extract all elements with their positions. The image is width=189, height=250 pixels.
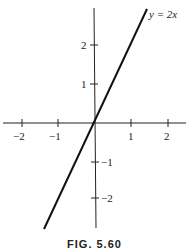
y-tick-label: −2 [101,192,113,204]
x-tick-label: 2 [164,130,170,142]
x-tick-label: −1 [49,130,61,142]
equation-label: y = 2x [148,8,177,20]
figure-caption: FIG. 5.60 [0,238,189,250]
y-tick-label: 1 [81,78,87,90]
y-tick-label: 2 [81,39,87,51]
x-tick-label: 1 [128,130,134,142]
y-tick-label: −1 [101,156,113,168]
x-tick-label: −2 [13,130,25,142]
